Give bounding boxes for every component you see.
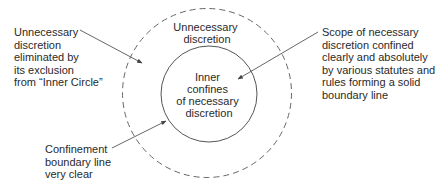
callout-line: boundary line xyxy=(322,89,388,101)
inner-region-line: of necessary xyxy=(176,95,239,107)
callout-line: its exclusion xyxy=(14,64,74,76)
discretion-diagram: Unnecessary discretion Inner confines of… xyxy=(0,0,440,187)
callout-line: discretion xyxy=(14,39,61,51)
callout-line: boundary line xyxy=(45,156,111,168)
callout-scope: Scope of necessary discretion confined c… xyxy=(322,26,438,101)
callout-line: very clear xyxy=(45,168,93,180)
callout-line: eliminated by xyxy=(14,51,79,63)
callout-line: discretion confined xyxy=(322,39,414,51)
outer-region-line: Unnecessary xyxy=(173,21,238,33)
inner-region-line: discretion xyxy=(185,107,232,119)
callout-confinement: Confinement boundary line very clear xyxy=(45,143,114,180)
callout-line: Scope of necessary xyxy=(322,26,419,38)
inner-region-line: confines xyxy=(187,83,228,95)
callout-line: by various statutes and xyxy=(322,64,435,76)
inner-region-label: Inner confines of necessary discretion xyxy=(176,71,241,119)
callout-line: rules forming a solid xyxy=(322,76,420,88)
outer-region-label: Unnecessary discretion xyxy=(173,21,240,45)
arrow-scope xyxy=(238,32,318,79)
outer-region-line: discretion xyxy=(183,33,230,45)
callout-line: from “Inner Circle” xyxy=(14,76,103,88)
callout-line: Confinement xyxy=(45,143,107,155)
inner-region-line: Inner xyxy=(195,71,220,83)
callout-line: clearly and absolutely xyxy=(322,51,428,63)
arrow-eliminated xyxy=(80,30,142,63)
callout-line: Unnecessary xyxy=(14,26,79,38)
